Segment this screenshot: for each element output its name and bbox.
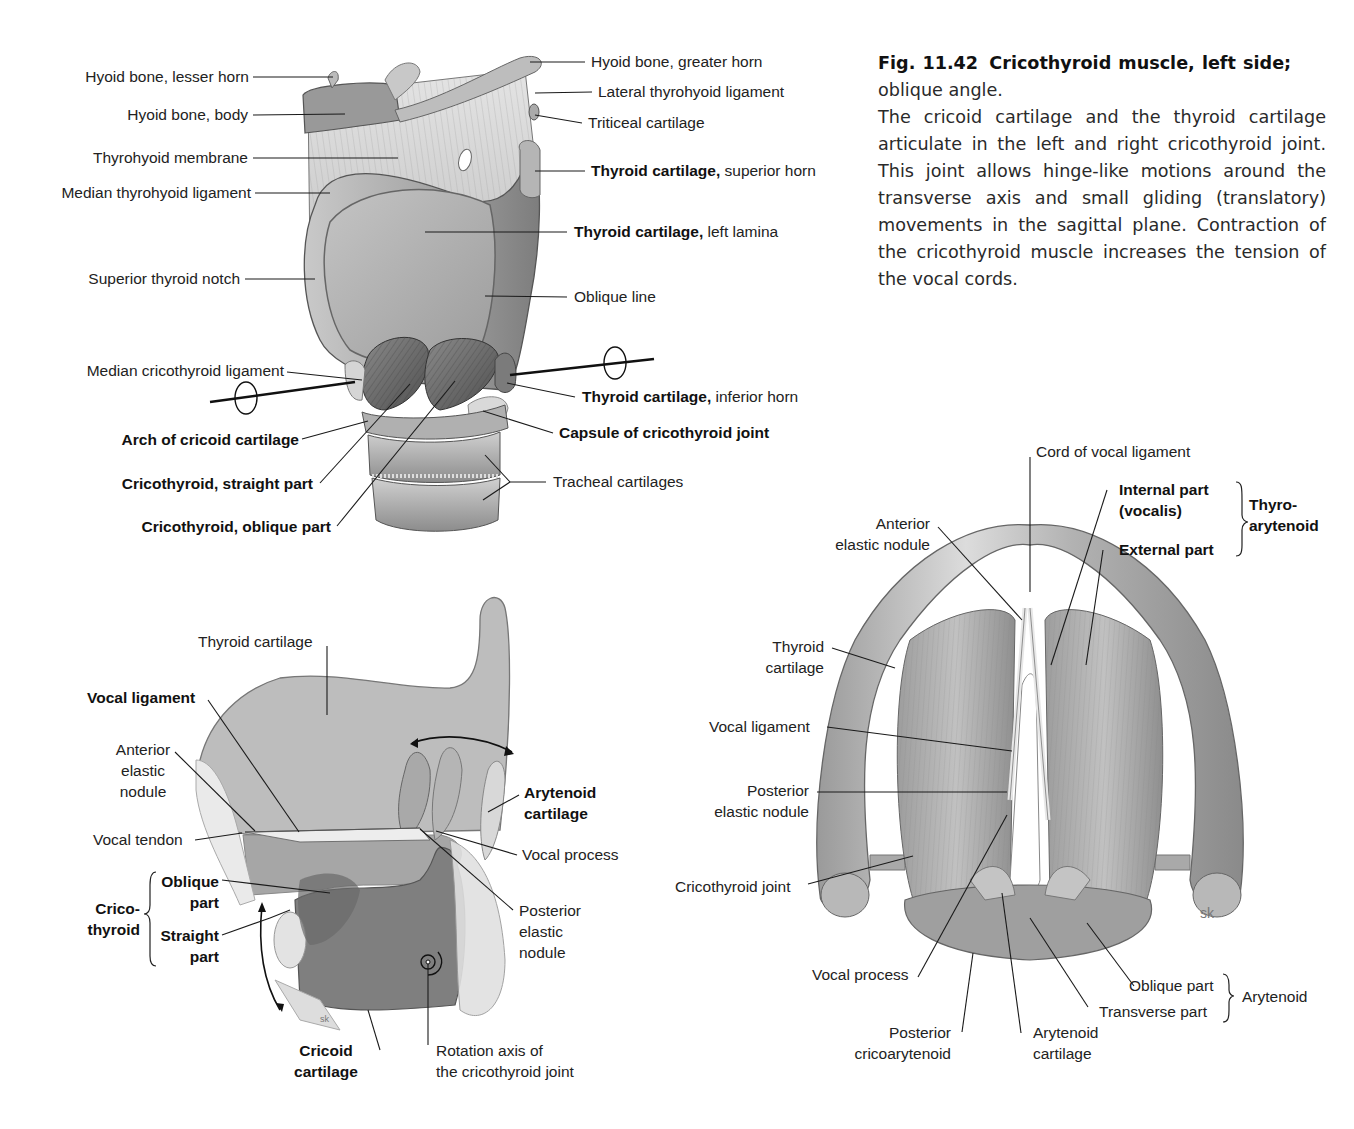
label-superior-thyroid-notch: Superior thyroid notch	[88, 268, 240, 289]
label-line: Posterior	[714, 780, 809, 801]
label-line: Rotation axis of	[436, 1040, 574, 1061]
label-line: elastic	[110, 760, 176, 781]
label-thyroid-inferior-horn: Thyroid cartilage, inferior horn	[582, 386, 798, 407]
label-b-posterior-elastic-nodule: Posterior elastic nodule	[519, 900, 581, 963]
label-line: elastic nodule	[835, 534, 930, 555]
label-c-anterior-elastic-nodule: Anterior elastic nodule	[835, 513, 930, 555]
label-c-vocal-process: Vocal process	[812, 964, 909, 985]
label-b-thyroid-cartilage: Thyroid cartilage	[198, 631, 313, 652]
label-b-crico-thyroid: Crico- thyroid	[87, 898, 140, 940]
label-thyrohyoid-membrane: Thyrohyoid membrane	[93, 147, 248, 168]
label-arch-of-cricoid: Arch of cricoid cartilage	[122, 429, 299, 450]
label-lateral-thyrohyoid-ligament: Lateral thyrohyoid ligament	[598, 81, 784, 102]
label-b-vocal-ligament: Vocal ligament	[87, 687, 195, 708]
label-line: Cricoid	[290, 1040, 362, 1061]
label-regular-part: superior horn	[720, 162, 816, 179]
label-line: Crico-	[87, 898, 140, 919]
label-line: cartilage	[290, 1061, 362, 1082]
label-c-vocal-ligament: Vocal ligament	[709, 716, 810, 737]
label-line: arytenoid	[1249, 515, 1319, 536]
label-bold-part: Thyroid cartilage,	[582, 388, 711, 405]
label-b-arytenoid-cartilage: Arytenoid cartilage	[524, 782, 596, 824]
label-line: Thyroid	[765, 636, 824, 657]
label-capsule-cricothyroid-joint: Capsule of cricothyroid joint	[559, 422, 769, 443]
label-b-straight-part: Straight part	[160, 925, 219, 967]
label-median-cricothyroid-ligament: Median cricothyroid ligament	[87, 360, 284, 381]
label-regular-part: left lamina	[703, 223, 778, 240]
label-b-anterior-elastic-nodule: Anterior elastic nodule	[110, 739, 176, 802]
label-hyoid-greater-horn: Hyoid bone, greater horn	[591, 51, 762, 72]
label-line: Internal part	[1119, 479, 1209, 500]
label-cricothyroid-straight: Cricothyroid, straight part	[122, 473, 313, 494]
caption-subtitle: oblique angle.	[878, 80, 1003, 100]
label-b-rotation-axis: Rotation axis of the cricothyroid joint	[436, 1040, 574, 1082]
label-c-oblique-part: Oblique part	[1129, 975, 1213, 996]
label-thyroid-superior-horn: Thyroid cartilage, superior horn	[591, 160, 816, 181]
label-line: the cricothyroid joint	[436, 1061, 574, 1082]
label-c-cricothyroid-joint: Cricothyroid joint	[675, 876, 790, 897]
label-line: cartilage	[765, 657, 824, 678]
signature-text-b: sk	[320, 1014, 330, 1024]
label-c-arytenoid-cartilage: Arytenoid cartilage	[1033, 1022, 1098, 1064]
label-line: (vocalis)	[1119, 500, 1209, 521]
label-c-thyroid-cartilage: Thyroid cartilage	[765, 636, 824, 678]
label-c-internal-part: Internal part (vocalis)	[1119, 479, 1209, 521]
label-thyroid-left-lamina: Thyroid cartilage, left lamina	[574, 221, 778, 242]
caption-body: The cricoid cartilage and the thyroid ca…	[878, 107, 1326, 289]
label-line: part	[161, 892, 219, 913]
label-b-vocal-tendon: Vocal tendon	[93, 829, 183, 850]
label-line: Thyro-	[1249, 494, 1319, 515]
label-c-transverse-part: Transverse part	[1099, 1001, 1207, 1022]
label-median-thyrohyoid-ligament: Median thyrohyoid ligament	[61, 182, 251, 203]
label-c-thyro-arytenoid: Thyro- arytenoid	[1249, 494, 1319, 536]
label-line: thyroid	[87, 919, 140, 940]
label-line: Straight	[160, 925, 219, 946]
label-c-posterior-cricoarytenoid: Posterior cricoarytenoid	[855, 1022, 952, 1064]
label-hyoid-body: Hyoid bone, body	[127, 104, 248, 125]
label-line: Posterior	[519, 900, 581, 921]
caption-title: Cricothyroid muscle, left side;	[989, 53, 1291, 73]
label-line: Arytenoid	[524, 782, 596, 803]
label-tracheal-cartilages: Tracheal cartilages	[553, 471, 683, 492]
label-line: cricoarytenoid	[855, 1043, 952, 1064]
label-cricothyroid-oblique: Cricothyroid, oblique part	[142, 516, 331, 537]
label-oblique-line: Oblique line	[574, 286, 656, 307]
figure-caption: Fig. 11.42 Cricothyroid muscle, left sid…	[878, 50, 1326, 293]
label-line: part	[160, 946, 219, 967]
label-bold-part: Thyroid cartilage,	[591, 162, 720, 179]
figure-b-larynx-lateral: sk	[196, 598, 514, 1030]
label-c-cord-of-vocal-ligament: Cord of vocal ligament	[1036, 441, 1190, 462]
label-b-cricoid-cartilage: Cricoid cartilage	[290, 1040, 362, 1082]
label-bold-part: Thyroid cartilage,	[574, 223, 703, 240]
label-line: cartilage	[524, 803, 596, 824]
label-b-oblique-part: Oblique part	[161, 871, 219, 913]
label-regular-part: inferior horn	[711, 388, 798, 405]
label-line: Arytenoid	[1033, 1022, 1098, 1043]
label-line: Posterior	[855, 1022, 952, 1043]
signature-text-c: sk	[1200, 905, 1215, 921]
label-line: nodule	[110, 781, 176, 802]
label-c-posterior-elastic-nodule: Posterior elastic nodule	[714, 780, 809, 822]
label-c-external-part: External part	[1119, 539, 1214, 560]
label-line: cartilage	[1033, 1043, 1098, 1064]
label-line: Anterior	[110, 739, 176, 760]
label-line: elastic nodule	[714, 801, 809, 822]
label-line: elastic	[519, 921, 581, 942]
label-line: Anterior	[835, 513, 930, 534]
caption-figure-number: Fig. 11.42	[878, 53, 978, 73]
label-line: nodule	[519, 942, 581, 963]
label-line: Oblique	[161, 871, 219, 892]
label-c-arytenoid: Arytenoid	[1242, 986, 1307, 1007]
label-b-vocal-process: Vocal process	[522, 844, 619, 865]
label-triticeal-cartilage: Triticeal cartilage	[588, 112, 705, 133]
label-hyoid-lesser-horn: Hyoid bone, lesser horn	[85, 66, 249, 87]
